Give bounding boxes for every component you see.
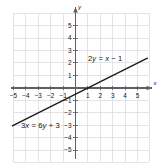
graph-canvas: x y −5 −4 bbox=[0, 0, 162, 168]
y-tick-label: 3 bbox=[68, 47, 72, 54]
y-axis-label: y bbox=[77, 3, 82, 10]
plotted-line-series-0 bbox=[12, 58, 147, 126]
equation-label-lower: 3x = 6y + 3 bbox=[21, 121, 60, 130]
equation-upper-constant: − 1 bbox=[111, 54, 122, 63]
x-tick-label: 2 bbox=[99, 92, 103, 99]
coordinate-plane-figure: x y −5 −4 bbox=[0, 0, 162, 168]
equation-label-upper: 2y = x − 1 bbox=[88, 54, 122, 63]
equation-lower-var-x: x bbox=[25, 121, 29, 130]
equation-upper-var-x: x bbox=[105, 54, 109, 63]
equation-lower-constant: + 3 bbox=[49, 121, 60, 130]
x-tick-label: 5 bbox=[136, 92, 140, 99]
y-tick-label: 5 bbox=[68, 22, 72, 29]
y-tick-label: 4 bbox=[68, 34, 72, 41]
x-tick-label: −4 bbox=[22, 92, 30, 99]
axes bbox=[11, 7, 153, 159]
x-tick-label: −5 bbox=[10, 92, 18, 99]
equation-upper-equals: = bbox=[98, 54, 103, 63]
y-tick-label: −2 bbox=[64, 109, 72, 116]
equation-lower-var-y: y bbox=[43, 121, 47, 130]
equation-upper-var-y: y bbox=[92, 54, 96, 63]
x-tick-label: 1 bbox=[86, 92, 90, 99]
y-tick-label: 2 bbox=[68, 59, 72, 66]
x-tick-label: 3 bbox=[111, 92, 115, 99]
y-tick-label: −3 bbox=[64, 122, 72, 129]
x-tick-label: −2 bbox=[47, 92, 55, 99]
y-tick-label: −4 bbox=[64, 134, 72, 141]
x-axis-label: x bbox=[152, 79, 157, 86]
y-tick-label: 1 bbox=[68, 72, 72, 79]
equation-lower-equals: = bbox=[31, 121, 36, 130]
y-tick-label: −5 bbox=[64, 146, 72, 153]
x-tick-label: −3 bbox=[35, 92, 43, 99]
x-tick-label: 4 bbox=[123, 92, 127, 99]
